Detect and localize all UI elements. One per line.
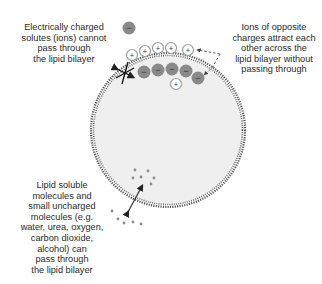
svg-text:+: +	[169, 44, 174, 53]
svg-text:−: −	[195, 73, 200, 83]
svg-text:+: +	[156, 44, 161, 53]
svg-text:−: −	[126, 23, 131, 33]
svg-text:+: +	[186, 46, 191, 55]
svg-text:−: −	[183, 66, 188, 76]
svg-text:+: +	[130, 51, 135, 60]
svg-text:−: −	[141, 67, 146, 77]
svg-text:+: +	[143, 47, 148, 56]
cell-diagram: − − − − − − + + + + + +	[0, 0, 322, 284]
svg-text:−: −	[155, 65, 160, 75]
svg-text:+: +	[174, 80, 179, 89]
cell	[91, 53, 245, 207]
svg-text:−: −	[169, 64, 174, 74]
